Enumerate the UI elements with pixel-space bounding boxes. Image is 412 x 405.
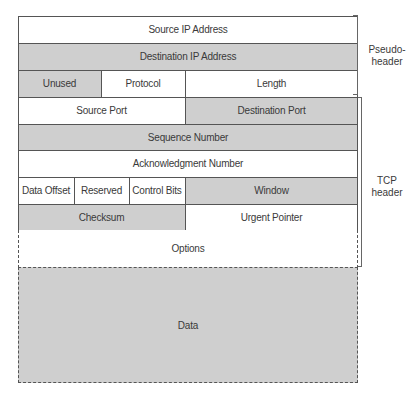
field-source-port: Source Port [18, 97, 185, 124]
divider [18, 204, 358, 205]
field-reserved: Reserved [74, 177, 129, 204]
field-options: Options [18, 230, 358, 268]
divider [129, 177, 130, 204]
tcp-header-label: TCP header [362, 175, 412, 199]
field-label: Control Bits [132, 185, 181, 196]
field-window: Window [185, 177, 358, 204]
field-protocol: Protocol [101, 70, 185, 97]
field-checksum: Checksum [18, 204, 185, 231]
field-destination-ip-address: Destination IP Address [18, 43, 358, 70]
field-sequence-number: Sequence Number [18, 124, 358, 150]
divider [101, 70, 102, 97]
pseudo-header-bracket [353, 15, 358, 95]
field-label: Reserved [81, 185, 122, 196]
bracket-label-line: header [362, 187, 412, 199]
field-acknowledgment-number: Acknowledgment Number [18, 150, 358, 177]
field-unused: Unused [18, 70, 101, 97]
field-label: Sequence Number [148, 132, 228, 143]
divider [18, 124, 358, 125]
field-control-bits: Control Bits [129, 177, 185, 204]
bracket-label-line: header [362, 56, 412, 68]
field-urgent-pointer: Urgent Pointer [185, 204, 358, 231]
divider [185, 177, 186, 231]
field-label: Source Port [76, 105, 127, 116]
divider [18, 43, 358, 44]
divider [18, 150, 358, 151]
divider [74, 177, 75, 204]
bracket-label-line: Pseudo- [362, 44, 412, 56]
field-source-ip-address: Source IP Address [18, 16, 358, 43]
field-label: Window [254, 185, 288, 196]
field-label: Length [257, 78, 286, 89]
field-destination-port: Destination Port [185, 97, 358, 124]
field-label: Destination Port [238, 105, 306, 116]
divider [185, 70, 186, 97]
field-label: Urgent Pointer [241, 212, 303, 223]
field-label: Data Offset [22, 185, 70, 196]
field-label: Unused [43, 78, 76, 89]
bracket-label-line: TCP [362, 175, 412, 187]
field-label: Options [171, 243, 204, 254]
divider [18, 70, 358, 71]
field-length: Length [185, 70, 358, 97]
field-label: Data [178, 320, 198, 331]
divider [18, 177, 358, 178]
field-data-offset: Data Offset [18, 177, 74, 204]
divider [18, 97, 358, 98]
field-label: Protocol [125, 78, 160, 89]
pseudo-header-label: Pseudo- header [362, 44, 412, 68]
divider [185, 97, 186, 124]
field-data: Data [18, 267, 358, 383]
field-label: Destination IP Address [140, 51, 237, 62]
field-label: Source IP Address [148, 24, 227, 35]
field-label: Checksum [79, 212, 125, 223]
field-label: Acknowledgment Number [133, 158, 243, 169]
